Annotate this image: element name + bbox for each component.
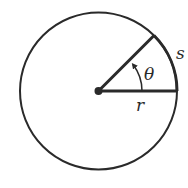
angle-arc-arrow [133, 65, 142, 92]
label-theta: θ [144, 64, 154, 84]
circle-diagram: θ s r [0, 0, 188, 188]
diagram-svg: θ s r [0, 0, 188, 188]
arc-s [154, 36, 177, 92]
label-s: s [176, 43, 185, 63]
center-point [95, 87, 103, 95]
label-r: r [136, 95, 145, 115]
